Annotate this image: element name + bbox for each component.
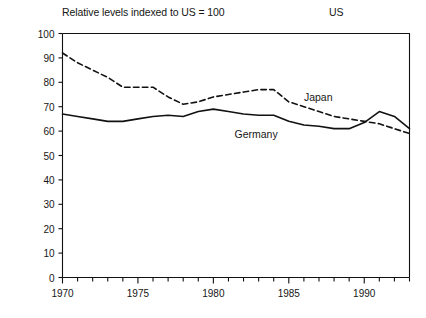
- series-label-germany: Germany: [234, 128, 277, 140]
- y-axis-tick-label: 100: [29, 28, 55, 39]
- x-axis-tick-label: 1975: [118, 288, 158, 299]
- chart-container: Relative levels indexed to US = 100 US 0…: [0, 0, 426, 318]
- y-axis-tick-label: 90: [29, 52, 55, 63]
- y-axis-tick-label: 40: [29, 174, 55, 185]
- y-axis-tick-label: 20: [29, 223, 55, 234]
- y-axis-tick-label: 60: [29, 126, 55, 137]
- series-line-germany: [63, 109, 410, 129]
- y-axis-tick-label: 70: [29, 101, 55, 112]
- y-axis-tick-label: 50: [29, 150, 55, 161]
- chart-plot-area: [0, 0, 426, 318]
- y-axis-tick-label: 80: [29, 77, 55, 88]
- y-axis-tick-label: 30: [29, 199, 55, 210]
- x-axis-tick-label: 1970: [43, 288, 83, 299]
- y-axis-tick-label: 10: [29, 248, 55, 259]
- us-reference-line: [63, 34, 410, 278]
- x-axis-tick-label: 1990: [344, 288, 384, 299]
- x-axis-tick-label: 1985: [269, 288, 309, 299]
- x-axis-tick-label: 1980: [193, 288, 233, 299]
- y-axis-tick-label: 0: [29, 272, 55, 283]
- series-label-japan: Japan: [304, 91, 333, 103]
